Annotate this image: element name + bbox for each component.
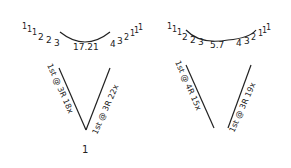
- left-count-3r: 3: [117, 36, 123, 46]
- right-leg-label: 1st @ 3R 22x: [91, 83, 121, 136]
- left-center-value: 17.21: [73, 42, 99, 52]
- left-count-1r-c: 1: [138, 23, 143, 32]
- sketch-canvas: 1 1 1 2 2 3 17.21 4 3 2 1 1 1 1st @ 3R 1…: [0, 0, 291, 168]
- right-count-2b: 2: [190, 35, 196, 45]
- right-center-value: 5.7: [210, 40, 224, 50]
- right-count-3: 3: [198, 37, 204, 47]
- right-count-4: 4: [236, 38, 242, 48]
- right-count-1r-c: 1: [266, 23, 271, 32]
- left-count-2r: 2: [124, 33, 129, 42]
- left-diagram: 1 1 1 2 2 3 17.21 4 3 2 1 1 1 1st @ 3R 1…: [22, 22, 143, 155]
- left-count-2b: 2: [46, 35, 52, 45]
- right-diagram: 1 1 1 2 2 3 5.7 4 3 2 1 1 1 1st @ 4R 15x…: [167, 22, 271, 134]
- right-count-2a: 2: [182, 32, 188, 42]
- left-top-arc: [60, 32, 110, 42]
- right-count-2r: 2: [251, 33, 256, 42]
- right-count-3r: 3: [244, 36, 250, 46]
- left-count-2a: 2: [38, 32, 44, 42]
- left-count-4: 4: [110, 39, 116, 49]
- left-count-1c: 1: [32, 28, 37, 37]
- left-bottom-label: 1: [82, 144, 88, 155]
- right-left-leg-label: 1st @ 4R 15x: [173, 59, 203, 112]
- left-count-3: 3: [54, 38, 60, 48]
